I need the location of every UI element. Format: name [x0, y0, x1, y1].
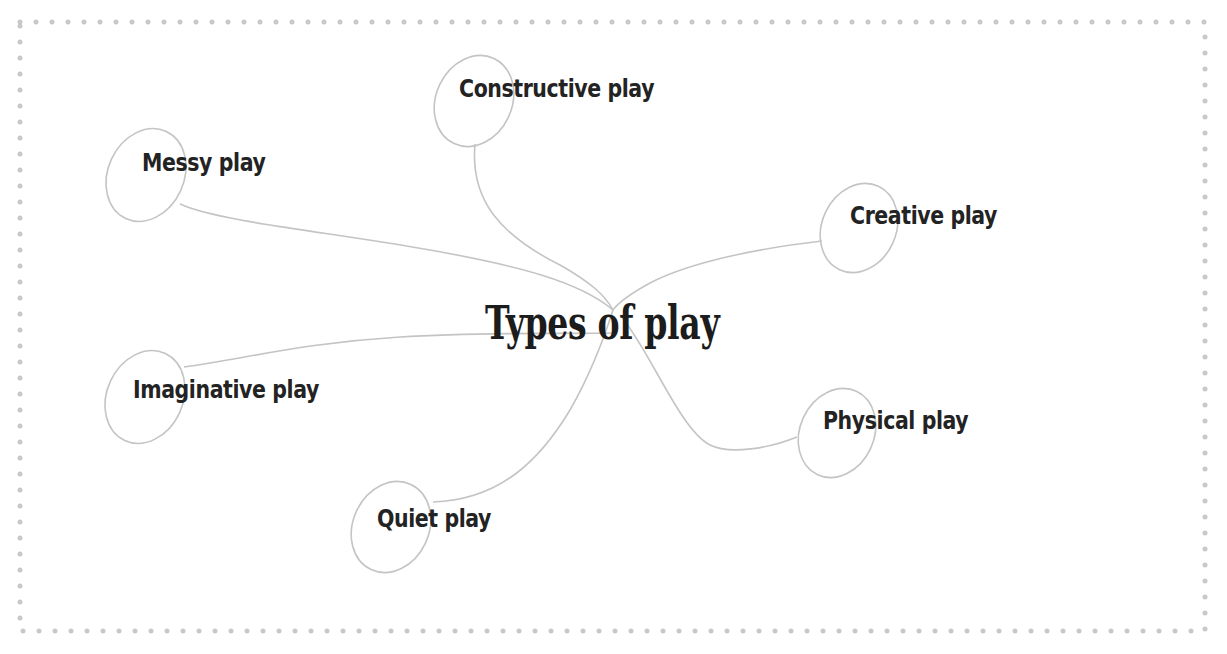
node-messy-play: Messy play: [142, 150, 265, 175]
node-physical-play: Physical play: [823, 408, 968, 433]
node-constructive-play: Constructive play: [459, 76, 654, 101]
node-quiet-play: Quiet play: [377, 506, 491, 531]
mind-map-canvas: Types of play Constructive play Messy pl…: [0, 0, 1227, 654]
central-title: Types of play: [485, 300, 719, 346]
connector-constructive: [474, 144, 613, 310]
node-creative-play: Creative play: [850, 203, 997, 228]
connector-messy: [180, 204, 613, 310]
node-imaginative-play: Imaginative play: [133, 377, 319, 402]
